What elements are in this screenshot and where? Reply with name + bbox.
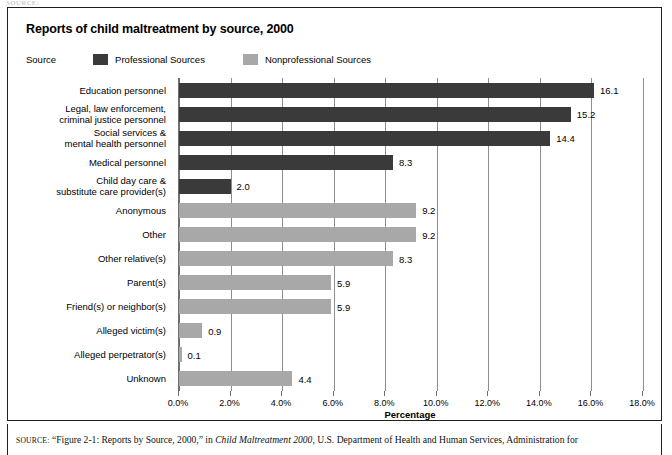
source-note-part1: “Figure 2-1: Reports by Source, 2000,” i… <box>49 434 215 445</box>
category-label: Alleged victim(s) <box>96 325 166 336</box>
bar-value-label: 14.4 <box>556 133 575 144</box>
x-axis-tick <box>539 391 540 396</box>
bar: 0.9 <box>179 323 202 338</box>
bar-value-label: 16.1 <box>600 85 619 96</box>
bar: 8.3 <box>179 155 393 170</box>
gridline <box>643 78 644 391</box>
bar-value-label: 5.9 <box>337 301 350 312</box>
bar-value-label: 0.1 <box>188 349 201 360</box>
bar-row: 0.1 <box>179 347 642 362</box>
category-label: Friend(s) or neighbor(s) <box>66 301 166 312</box>
bar-row: 16.1 <box>179 83 642 98</box>
category-label: Anonymous <box>116 205 166 216</box>
bar-row: 14.4 <box>179 131 642 146</box>
x-axis-tick <box>487 391 488 396</box>
bar: 9.2 <box>179 227 416 242</box>
bar-value-label: 9.2 <box>422 229 435 240</box>
bar-row: 0.9 <box>179 323 642 338</box>
category-label: Legal, law enforcement, criminal justice… <box>59 103 166 125</box>
bar-row: 2.0 <box>179 179 642 194</box>
bar-value-label: 8.3 <box>399 157 412 168</box>
category-label: Child day care & substitute care provide… <box>56 175 166 197</box>
x-axis-tick-label: 6.0% <box>322 398 343 408</box>
bar-row: 8.3 <box>179 251 642 266</box>
x-axis-tick-label: 12.0% <box>475 398 501 408</box>
x-axis-tick <box>281 391 282 396</box>
bar: 5.9 <box>179 299 331 314</box>
x-axis-tick <box>230 391 231 396</box>
x-axis-tick <box>590 391 591 396</box>
bar-value-label: 4.4 <box>298 373 311 384</box>
bar: 16.1 <box>179 83 594 98</box>
x-axis-tick-label: 16.0% <box>578 398 604 408</box>
bar: 14.4 <box>179 131 550 146</box>
category-label: Social services & mental health personne… <box>65 127 166 149</box>
x-axis-tick-label: 2.0% <box>219 398 240 408</box>
bar-row: 15.2 <box>179 107 642 122</box>
bar: 15.2 <box>179 107 571 122</box>
x-axis-tick-label: 8.0% <box>374 398 395 408</box>
x-axis-tick <box>333 391 334 396</box>
figure-box: Reports of child maltreatment by source,… <box>7 7 662 421</box>
x-axis-tick-label: 4.0% <box>271 398 292 408</box>
bar-value-label: 5.9 <box>337 277 350 288</box>
bar-row: 5.9 <box>179 299 642 314</box>
category-label: Parent(s) <box>127 277 166 288</box>
category-label: Education personnel <box>79 85 166 96</box>
category-labels: Education personnelLegal, law enforcemen… <box>8 78 172 391</box>
bar: 2.0 <box>179 179 231 194</box>
category-label: Medical personnel <box>89 157 166 168</box>
x-axis-tick-label: 14.0% <box>526 398 552 408</box>
x-axis-tick <box>642 391 643 396</box>
category-label: Other <box>142 229 166 240</box>
x-axis-tick <box>436 391 437 396</box>
bar-row: 9.2 <box>179 227 642 242</box>
bar-row: 9.2 <box>179 203 642 218</box>
bar: 8.3 <box>179 251 393 266</box>
x-axis-tick <box>178 391 179 396</box>
bar: 5.9 <box>179 275 331 290</box>
bar-row: 8.3 <box>179 155 642 170</box>
bar-value-label: 15.2 <box>577 109 596 120</box>
source-note: SOURCE: “Figure 2-1: Reports by Source, … <box>16 434 662 447</box>
x-axis-tick-label: 0.0% <box>168 398 189 408</box>
category-label: Unknown <box>126 373 166 384</box>
bar-row: 4.4 <box>179 371 642 386</box>
bar: 4.4 <box>179 371 292 386</box>
plot-area: 16.115.214.48.32.09.29.28.35.95.90.90.14… <box>178 78 642 391</box>
x-axis-tick-label: 10.0% <box>423 398 449 408</box>
category-label: Alleged perpetrator(s) <box>74 349 166 360</box>
bar: 0.1 <box>179 347 182 362</box>
bar-value-label: 9.2 <box>422 205 435 216</box>
bar-value-label: 2.0 <box>237 181 250 192</box>
page-rule-left <box>7 424 8 455</box>
bar: 9.2 <box>179 203 416 218</box>
x-axis-tick <box>384 391 385 396</box>
source-note-title: Child Maltreatment 2000 <box>215 434 312 445</box>
bar-rows: 16.115.214.48.32.09.29.28.35.95.90.90.14… <box>179 78 642 391</box>
plot-wrapper: Education personnelLegal, law enforcemen… <box>8 8 663 422</box>
bar-row: 5.9 <box>179 275 642 290</box>
clipped-top-text: SOURCE: <box>6 0 84 6</box>
category-label: Other relative(s) <box>98 253 166 264</box>
x-axis-tick-label: 18.0% <box>629 398 655 408</box>
bar-value-label: 0.9 <box>208 325 221 336</box>
source-note-label: SOURCE: <box>16 436 49 445</box>
source-note-part2: , U.S. Department of Health and Human Se… <box>312 434 578 445</box>
bar-value-label: 8.3 <box>399 253 412 264</box>
x-axis-title: Percentage <box>178 409 642 420</box>
